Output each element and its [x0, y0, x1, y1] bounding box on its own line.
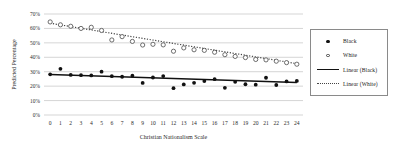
x-tick-label: 4 — [90, 120, 93, 126]
x-tick-label: 18 — [232, 120, 238, 126]
x-tick-label: 23 — [284, 120, 290, 126]
data-point-black — [295, 79, 299, 83]
data-point-white — [274, 59, 278, 63]
open-circle-icon — [315, 54, 341, 57]
data-point-black — [223, 86, 227, 90]
data-point-white — [120, 35, 124, 39]
data-point-black — [110, 74, 114, 78]
data-point-white — [295, 62, 299, 66]
data-point-white — [223, 53, 227, 57]
data-point-white — [254, 57, 258, 61]
data-point-white — [48, 20, 52, 24]
x-tick-label: 14 — [191, 120, 197, 126]
y-tick-label: 0% — [33, 112, 41, 118]
data-point-black — [192, 81, 196, 85]
y-tick-label: 40% — [30, 54, 40, 60]
data-point-black — [48, 72, 52, 76]
data-point-white — [202, 48, 206, 52]
dotted-line-icon — [315, 83, 341, 84]
legend-label-linear-white: Linear (White) — [341, 81, 378, 87]
data-point-black — [244, 82, 248, 86]
y-tick-label: 30% — [30, 69, 40, 75]
y-tick-label: 60% — [30, 25, 40, 31]
x-tick-label: 6 — [110, 120, 113, 126]
x-axis-title: Christian Nationalism Scale — [140, 134, 208, 140]
data-point-black — [182, 83, 186, 87]
x-tick-label: 9 — [141, 120, 144, 126]
legend-label-linear-black: Linear (Black) — [341, 67, 377, 73]
y-tick-label: 10% — [30, 98, 40, 104]
data-point-black — [264, 76, 268, 80]
data-point-white — [284, 61, 288, 65]
data-point-black — [161, 74, 165, 78]
data-point-white — [58, 23, 62, 27]
x-tick-label: 17 — [222, 120, 228, 126]
data-point-black — [151, 76, 155, 80]
data-point-black — [254, 83, 258, 87]
x-tick-label: 8 — [131, 120, 134, 126]
x-tick-label: 15 — [202, 120, 208, 126]
x-tick-label: 19 — [243, 120, 249, 126]
scatter-chart: 0%10%20%30%40%50%60%70% 0123456789101112… — [0, 0, 310, 147]
data-point-black — [100, 70, 104, 74]
x-tick-label: 0 — [49, 120, 52, 126]
data-point-black — [233, 80, 237, 84]
legend-item-linear-white: Linear (White) — [315, 77, 384, 91]
x-tick-label: 24 — [294, 120, 300, 126]
data-point-black — [274, 83, 278, 87]
data-point-black — [141, 81, 145, 85]
data-point-white — [69, 24, 73, 28]
data-point-black — [89, 74, 93, 78]
x-tick-label: 11 — [161, 120, 167, 126]
legend-item-black: Black — [315, 34, 384, 48]
x-tick-label: 21 — [263, 120, 269, 126]
solid-line-icon — [315, 69, 341, 70]
data-point-black — [172, 86, 176, 90]
data-point-black — [79, 73, 83, 77]
legend-item-white: White — [315, 48, 384, 62]
data-point-black — [285, 79, 289, 83]
legend-item-linear-black: Linear (Black) — [315, 63, 384, 77]
y-tick-label: 50% — [30, 40, 40, 46]
data-point-white — [264, 58, 268, 62]
data-point-white — [79, 26, 83, 30]
x-tick-label: 20 — [253, 120, 259, 126]
plot-area-container: 0%10%20%30%40%50%60%70% 0123456789101112… — [0, 0, 310, 147]
y-tick-label: 70% — [30, 11, 40, 17]
y-axis-tick-labels: 0%10%20%30%40%50%60%70% — [30, 11, 40, 118]
x-tick-label: 10 — [150, 120, 156, 126]
data-point-black — [59, 67, 63, 71]
data-point-white — [182, 46, 186, 50]
x-tick-label: 13 — [181, 120, 187, 126]
chart-legend: Black White Linear (Black) Linear (White… — [310, 29, 388, 96]
data-point-white — [161, 43, 165, 47]
legend-label-white: White — [341, 52, 357, 58]
data-point-white — [243, 55, 247, 59]
data-point-white — [141, 43, 145, 47]
data-point-white — [192, 48, 196, 52]
x-tick-label: 7 — [121, 120, 124, 126]
x-tick-label: 22 — [273, 120, 279, 126]
x-tick-label: 2 — [69, 120, 72, 126]
data-point-white — [110, 38, 114, 42]
data-point-white — [99, 28, 103, 32]
filled-circle-icon — [315, 40, 341, 43]
y-tick-label: 20% — [30, 83, 40, 89]
data-point-white — [233, 54, 237, 58]
x-tick-label: 12 — [171, 120, 177, 126]
data-point-black — [130, 74, 134, 78]
data-point-white — [130, 39, 134, 43]
trendline-solid — [50, 75, 297, 83]
x-tick-label: 1 — [59, 120, 62, 126]
data-point-black — [69, 73, 73, 77]
x-tick-label: 5 — [100, 120, 103, 126]
data-point-white — [213, 50, 217, 54]
data-point-white — [171, 49, 175, 53]
data-point-white — [151, 42, 155, 46]
data-point-black — [213, 77, 217, 81]
data-point-white — [89, 25, 93, 29]
y-axis-title: Predicted Percentage — [11, 39, 17, 90]
data-point-black — [120, 75, 124, 79]
x-tick-label: 3 — [80, 120, 83, 126]
x-tick-label: 16 — [212, 120, 218, 126]
